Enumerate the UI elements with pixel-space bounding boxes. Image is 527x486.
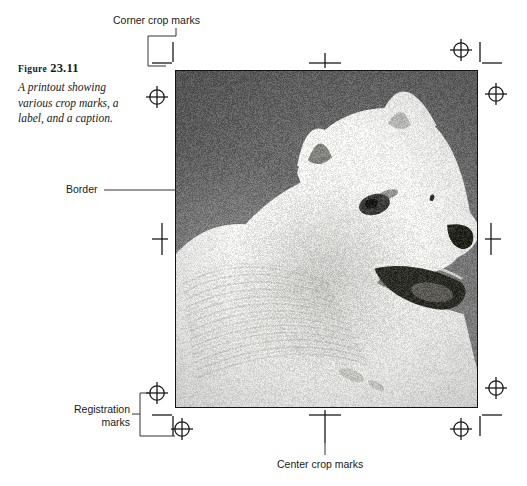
registration-mark-top-left (146, 86, 168, 108)
figure-page: Figure 23.11 A printout showing various … (0, 0, 527, 486)
registration-mark-bottom-right-lower (450, 418, 472, 440)
center-crop-mark-left (152, 223, 168, 255)
registration-mark-bottom-left-lower (171, 418, 193, 440)
center-crop-mark-top (309, 53, 341, 68)
leader-corner-crop-marks (148, 28, 176, 66)
registration-mark-bottom-right-upper (485, 377, 507, 399)
registration-mark-top-right (450, 39, 472, 61)
crop-mark-overlay (0, 0, 527, 486)
center-crop-mark-bottom (309, 410, 341, 443)
center-crop-mark-right (485, 223, 501, 255)
registration-mark-top-right-inner (485, 83, 507, 105)
